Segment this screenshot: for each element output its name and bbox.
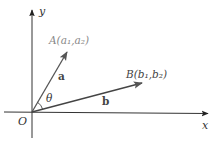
angle-arc [38, 102, 43, 109]
x-axis [4, 112, 208, 114]
origin-label: O [18, 115, 27, 128]
vector-b-label: b [102, 95, 109, 107]
y-axis-label: y [38, 5, 46, 18]
angle-theta-label: θ [46, 92, 53, 104]
x-axis-label: x [202, 119, 209, 132]
vector-a-label: a [58, 70, 65, 82]
point-b-label: B(b₁,b₂) [125, 68, 167, 80]
point-a-label: A(a₁,a₂) [48, 34, 89, 46]
vector-diagram: y x O A(a₁,a₂) B(b₁,b₂) a b θ [0, 0, 217, 143]
